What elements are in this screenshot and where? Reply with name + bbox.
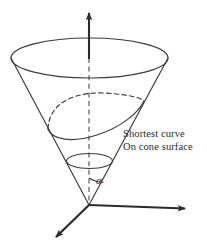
cone-diagram-svg: Shortest curve On cone surface α [0, 0, 207, 250]
half-angle-alpha-label: α [96, 174, 102, 186]
on-cone-surface-label-line2: On cone surface [123, 141, 193, 152]
cone-geodesic-figure: Shortest curve On cone surface α [0, 0, 207, 250]
shortest-curve-label-line1: Shortest curve [123, 128, 185, 139]
figure-background [0, 0, 207, 250]
